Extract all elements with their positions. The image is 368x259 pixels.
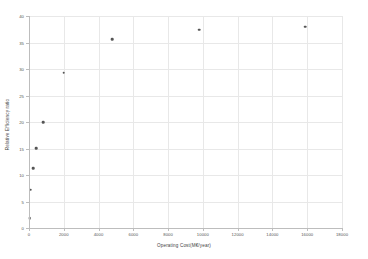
x-tick-label-4000: 4000 xyxy=(94,232,104,237)
gridline-y-25 xyxy=(29,96,342,97)
y-tick-mark-25 xyxy=(26,96,29,97)
y-tick-label-40: 40 xyxy=(16,14,24,19)
x-tick-label-14000: 14000 xyxy=(266,232,278,237)
x-tick-mark-14000 xyxy=(272,228,273,231)
x-tick-mark-10000 xyxy=(203,228,204,231)
data-point xyxy=(42,121,45,124)
x-tick-label-10000: 10000 xyxy=(197,232,209,237)
gridline-x-18000 xyxy=(342,16,343,228)
x-tick-mark-2000 xyxy=(64,228,65,231)
y-axis-line xyxy=(29,16,30,228)
x-tick-mark-0 xyxy=(29,228,30,231)
x-tick-label-2000: 2000 xyxy=(59,232,69,237)
data-point xyxy=(35,147,38,150)
data-point xyxy=(304,25,307,28)
x-axis-line xyxy=(29,228,342,229)
gridline-x-2000 xyxy=(64,16,65,228)
y-tick-mark-5 xyxy=(26,202,29,203)
y-tick-label-30: 30 xyxy=(16,67,24,72)
x-tick-label-12000: 12000 xyxy=(232,232,244,237)
scatter-chart-figure: 0200040006000800010000120001400016000180… xyxy=(0,0,368,259)
y-tick-label-5: 5 xyxy=(16,199,24,204)
gridline-x-6000 xyxy=(133,16,134,228)
x-tick-mark-8000 xyxy=(168,228,169,231)
data-point xyxy=(198,28,201,31)
data-point xyxy=(62,71,65,74)
y-tick-label-25: 25 xyxy=(16,93,24,98)
x-tick-label-18000: 18000 xyxy=(336,232,348,237)
y-tick-mark-15 xyxy=(26,149,29,150)
gridline-x-14000 xyxy=(272,16,273,228)
gridline-x-12000 xyxy=(238,16,239,228)
gridline-y-10 xyxy=(29,175,342,176)
x-tick-label-0: 0 xyxy=(28,232,30,237)
y-tick-mark-40 xyxy=(26,16,29,17)
gridline-y-15 xyxy=(29,149,342,150)
x-axis-title: Operating Cost(M€/year) xyxy=(0,243,368,248)
y-tick-mark-10 xyxy=(26,175,29,176)
gridline-y-20 xyxy=(29,122,342,123)
y-tick-label-15: 15 xyxy=(16,146,24,151)
data-point xyxy=(32,167,35,170)
y-tick-mark-0 xyxy=(26,228,29,229)
x-tick-label-8000: 8000 xyxy=(163,232,173,237)
gridline-x-8000 xyxy=(168,16,169,228)
y-tick-label-20: 20 xyxy=(16,120,24,125)
gridline-x-16000 xyxy=(307,16,308,228)
y-tick-mark-35 xyxy=(26,43,29,44)
y-tick-label-0: 0 xyxy=(16,226,24,231)
y-tick-mark-20 xyxy=(26,122,29,123)
x-tick-mark-18000 xyxy=(342,228,343,231)
y-tick-label-10: 10 xyxy=(16,173,24,178)
gridline-y-40 xyxy=(29,16,342,17)
x-tick-label-16000: 16000 xyxy=(301,232,313,237)
gridline-x-4000 xyxy=(99,16,100,228)
gridline-y-30 xyxy=(29,69,342,70)
gridline-y-35 xyxy=(29,43,342,44)
data-point xyxy=(111,38,114,41)
x-tick-mark-6000 xyxy=(133,228,134,231)
gridline-x-10000 xyxy=(203,16,204,228)
x-tick-mark-12000 xyxy=(238,228,239,231)
y-axis-title: Relative Efficiency ratio xyxy=(5,94,10,156)
gridline-y-5 xyxy=(29,202,342,203)
x-tick-mark-16000 xyxy=(307,228,308,231)
x-tick-label-6000: 6000 xyxy=(128,232,138,237)
y-tick-label-35: 35 xyxy=(16,40,24,45)
x-tick-mark-4000 xyxy=(99,228,100,231)
plot-area xyxy=(29,16,342,228)
y-tick-mark-30 xyxy=(26,69,29,70)
